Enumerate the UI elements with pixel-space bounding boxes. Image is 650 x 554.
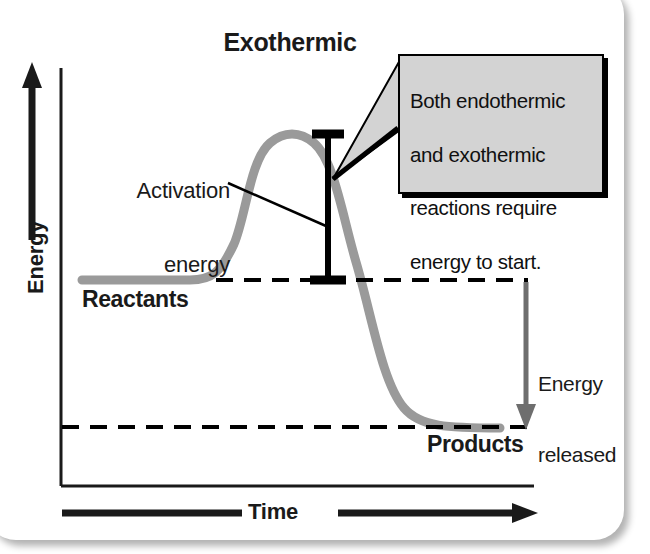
x-axis-arrow-icon [62,503,538,523]
callout-text-line2: and exothermic [410,142,600,169]
callout-box: Both endothermic and exothermic reaction… [398,54,604,194]
callout-pointer-tail [333,60,400,179]
activation-energy-label-line1: Activation [90,179,230,204]
energy-released-label-line2: released [538,443,642,467]
callout-text: Both endothermic and exothermic reaction… [410,61,600,303]
energy-released-label: Energy released [538,325,642,513]
callout-text-line3: reactions require [410,195,600,222]
callout-text-line1: Both endothermic [410,88,600,115]
callout-text-line4: energy to start. [410,249,600,276]
energy-released-arrow [516,282,536,430]
energy-released-label-line1: Energy [538,372,642,396]
activation-energy-label: Activation energy [90,130,230,327]
energy-diagram-figure: Exothermic Energy Time Reactants Product… [0,0,650,554]
chart-title: Exothermic [0,28,580,56]
x-axis-label: Time [248,500,298,525]
activation-energy-label-line2: energy [90,253,230,278]
y-axis-label: Energy [24,202,49,312]
products-label: Products [427,432,523,458]
